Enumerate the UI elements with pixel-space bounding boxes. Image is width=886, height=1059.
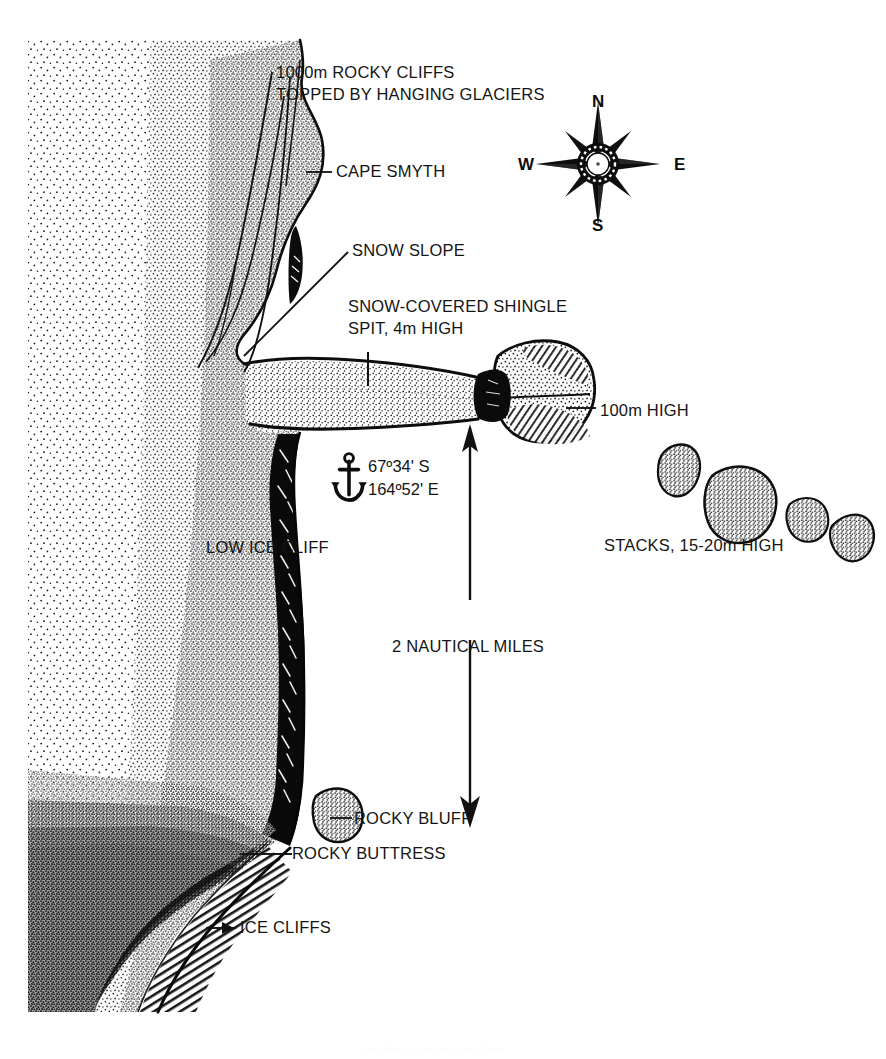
label-shingle-spit-line1: SNOW-COVERED SHINGLE (348, 296, 567, 318)
stack-4 (830, 515, 874, 562)
compass-south-label: S (592, 216, 603, 236)
label-rocky-cliffs-line1: 1000m ROCKY CLIFFS (276, 62, 454, 84)
label-shingle-spit-line2: SPIT, 4m HIGH (348, 318, 463, 340)
map-artwork (0, 0, 886, 1059)
compass-north-label: N (592, 92, 604, 112)
coastal-sketch-map: 1000m ROCKY CLIFFS TOPPED BY HANGING GLA… (0, 0, 886, 1059)
label-snow-slope: SNOW SLOPE (352, 240, 465, 262)
stack-3 (787, 498, 829, 542)
label-rocky-buttress: ROCKY BUTTRESS (292, 843, 446, 865)
label-headland-height: 100m HIGH (600, 400, 689, 422)
stack-2 (705, 467, 777, 543)
compass-west-label: W (518, 155, 534, 175)
label-stacks: STACKS, 15-20m HIGH (604, 535, 784, 557)
anchorage-longitude: 164º52' E (368, 478, 439, 500)
label-low-ice-cliff: LOW ICE CLIFF (206, 537, 329, 559)
compass-rose-icon (536, 102, 660, 226)
label-rocky-cliffs-line2: TOPPED BY HANGING GLACIERS (276, 84, 545, 106)
scale-arrow (460, 424, 480, 828)
label-rocky-bluff: ROCKY BLUFF (354, 808, 471, 830)
offshore-headland (474, 341, 595, 444)
faint-watermark: available to download at no charge (362, 1044, 506, 1053)
stack-1 (658, 445, 700, 497)
shingle-spit (244, 358, 506, 432)
anchor-icon (331, 454, 367, 501)
cape-smyth-gully (289, 226, 303, 304)
compass-east-label: E (674, 155, 685, 175)
label-cape-smyth: CAPE SMYTH (336, 161, 445, 183)
anchorage-latitude: 67º34' S (368, 455, 429, 477)
label-scale: 2 NAUTICAL MILES (392, 636, 544, 658)
label-ice-cliffs: ICE CLIFFS (240, 917, 331, 939)
